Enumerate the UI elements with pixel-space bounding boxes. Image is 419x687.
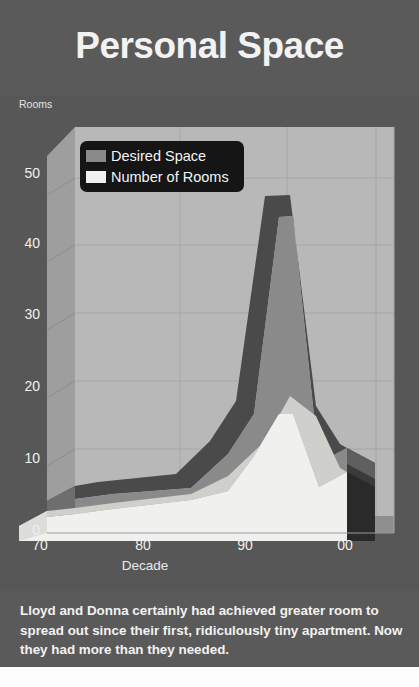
y-tick-50: 50 bbox=[6, 165, 40, 181]
legend-swatch-icon-desired-space bbox=[86, 150, 106, 162]
x-tick-00: 00 bbox=[328, 537, 362, 553]
comic-panel: Personal Space Rooms Decade bbox=[0, 0, 419, 687]
x-axis-title: Decade bbox=[0, 557, 290, 574]
legend-swatch-icon-number-of-rooms bbox=[86, 171, 106, 183]
chart-legend: Desired Space Number of Rooms bbox=[80, 141, 244, 192]
y-tick-20: 20 bbox=[6, 378, 40, 394]
chart-left-wall bbox=[47, 127, 75, 533]
y-tick-10: 10 bbox=[6, 450, 40, 466]
x-tick-80: 80 bbox=[126, 537, 160, 553]
footer-band bbox=[0, 667, 419, 687]
legend-item-desired-space: Desired Space bbox=[86, 145, 238, 166]
legend-label-desired-space: Desired Space bbox=[111, 147, 206, 165]
page-title: Personal Space bbox=[0, 22, 419, 70]
x-tick-90: 90 bbox=[228, 537, 262, 553]
y-tick-0: 0 bbox=[6, 522, 40, 538]
legend-label-number-of-rooms: Number of Rooms bbox=[111, 168, 229, 186]
x-tick-70: 70 bbox=[23, 537, 57, 553]
legend-item-number-of-rooms: Number of Rooms bbox=[86, 166, 238, 187]
y-tick-30: 30 bbox=[6, 306, 40, 322]
caption-text: Lloyd and Donna certainly had achieved g… bbox=[20, 601, 405, 660]
y-tick-40: 40 bbox=[6, 235, 40, 251]
